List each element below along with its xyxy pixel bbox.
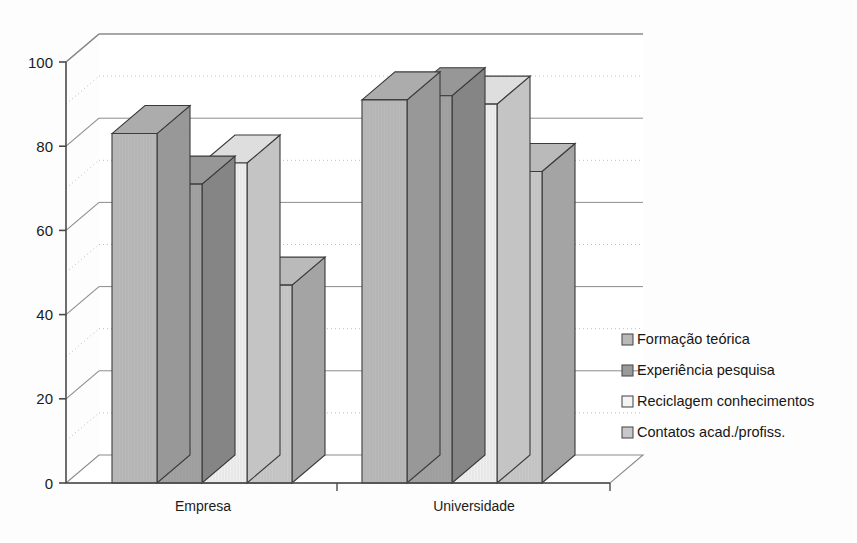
bar-side-face <box>407 72 440 483</box>
y-axis-tick-label: 60 <box>36 222 53 239</box>
bar-side-face <box>452 68 485 483</box>
gridline-minor-connector <box>66 245 99 273</box>
x-axis-category-label-1: Universidade <box>433 498 515 514</box>
bar-front-face <box>362 100 407 483</box>
chart-container: 020406080100EmpresaUniversidadeFormação … <box>0 0 857 543</box>
gridline-major-connector <box>66 34 99 62</box>
gridline-major-connector <box>66 118 99 146</box>
y-axis-tick-label: 80 <box>36 138 53 155</box>
legend-item-1[interactable]: Experiência pesquisa <box>622 362 776 378</box>
bar-chart-3d: 020406080100EmpresaUniversidadeFormação … <box>0 0 857 543</box>
bar-side-face <box>497 76 530 483</box>
bar-side-face <box>247 135 280 483</box>
legend-item-0[interactable]: Formação teórica <box>622 331 751 347</box>
gridline-major-connector <box>66 202 99 230</box>
bar-side-face <box>542 143 575 483</box>
legend-swatch <box>622 427 633 438</box>
y-axis-tick-label: 20 <box>36 390 53 407</box>
y-axis-tick-label: 0 <box>45 475 53 492</box>
legend-swatch <box>622 334 633 345</box>
legend: Formação teóricaExperiência pesquisaReci… <box>622 331 814 440</box>
bar-0-0[interactable] <box>112 106 190 483</box>
bar-side-face <box>157 106 190 483</box>
gridline-minor-connector <box>66 76 99 104</box>
legend-swatch <box>622 396 633 407</box>
bar-side-face <box>202 156 235 483</box>
gridline-minor-connector <box>66 329 99 357</box>
legend-swatch <box>622 365 633 376</box>
gridline-major-connector <box>66 371 99 399</box>
legend-item-3[interactable]: Contatos acad./profiss. <box>622 424 785 440</box>
bar-1-0[interactable] <box>362 72 440 483</box>
legend-item-label: Experiência pesquisa <box>637 362 776 378</box>
gridline-minor-connector <box>66 160 99 188</box>
legend-item-label: Reciclagem conhecimentos <box>637 393 814 409</box>
gridline-major-connector <box>66 287 99 315</box>
y-axis-tick-label: 40 <box>36 306 53 323</box>
x-axis-category-label-0: Empresa <box>175 498 231 514</box>
gridline-minor-connector <box>66 413 99 441</box>
legend-item-label: Formação teórica <box>637 331 751 347</box>
bar-side-face <box>292 257 325 483</box>
legend-item-label: Contatos acad./profiss. <box>637 424 785 440</box>
legend-item-2[interactable]: Reciclagem conhecimentos <box>622 393 814 409</box>
bar-front-face <box>112 134 157 483</box>
y-axis-tick-label: 100 <box>28 54 53 71</box>
